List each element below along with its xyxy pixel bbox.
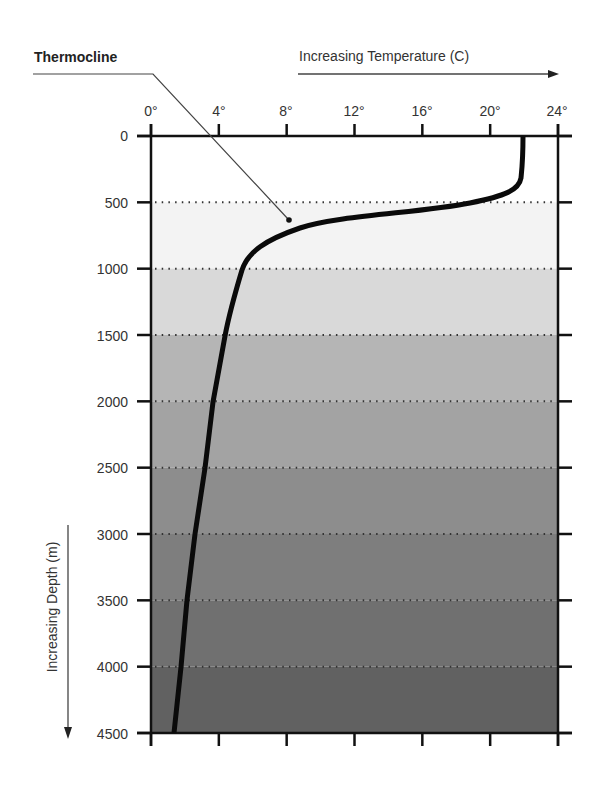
x-tick-label: 0° — [144, 103, 157, 119]
x-tick-label: 8° — [279, 103, 292, 119]
y-tick-label: 3000 — [97, 527, 128, 543]
depth-band — [151, 468, 558, 534]
x-tick-label: 24° — [546, 103, 567, 119]
y-tick-label: 4000 — [97, 659, 128, 675]
depth-band — [151, 534, 558, 600]
x-tick-label: 16° — [411, 103, 432, 119]
x-tick-labels: 0° 4° 8° 12° 16° 20° 24° — [144, 103, 567, 119]
y-tick-label: 1000 — [97, 261, 128, 277]
depth-band — [151, 202, 558, 268]
depth-band — [151, 600, 558, 666]
y-tick-label: 0 — [120, 128, 128, 144]
depth-band — [151, 136, 558, 202]
y-tick-label: 3500 — [97, 593, 128, 609]
depth-band — [151, 335, 558, 401]
x-axis-arrow-icon — [298, 70, 559, 78]
y-tick-label: 2500 — [97, 460, 128, 476]
temperature-depth-chart: 0° 4° 8° 12° 16° 20° 24° 0 500 1000 1500… — [0, 0, 604, 794]
x-tick-label: 20° — [479, 103, 500, 119]
depth-band — [151, 269, 558, 335]
y-tick-label: 500 — [105, 195, 129, 211]
y-tick-label: 4500 — [97, 726, 128, 742]
y-axis-arrow-icon — [64, 525, 72, 739]
x-tick-label: 12° — [343, 103, 364, 119]
x-axis-title: Increasing Temperature (C) — [299, 48, 469, 64]
y-axis-title: Increasing Depth (m) — [44, 542, 60, 673]
depth-band — [151, 667, 558, 733]
x-tick-label: 4° — [212, 103, 225, 119]
depth-bands — [151, 136, 558, 733]
thermocline-label: Thermocline — [34, 49, 117, 65]
y-tick-labels: 0 500 1000 1500 2000 2500 3000 3500 4000… — [97, 128, 128, 742]
y-tick-label: 2000 — [97, 394, 128, 410]
y-tick-label: 1500 — [97, 328, 128, 344]
thermocline-marker — [286, 217, 292, 223]
